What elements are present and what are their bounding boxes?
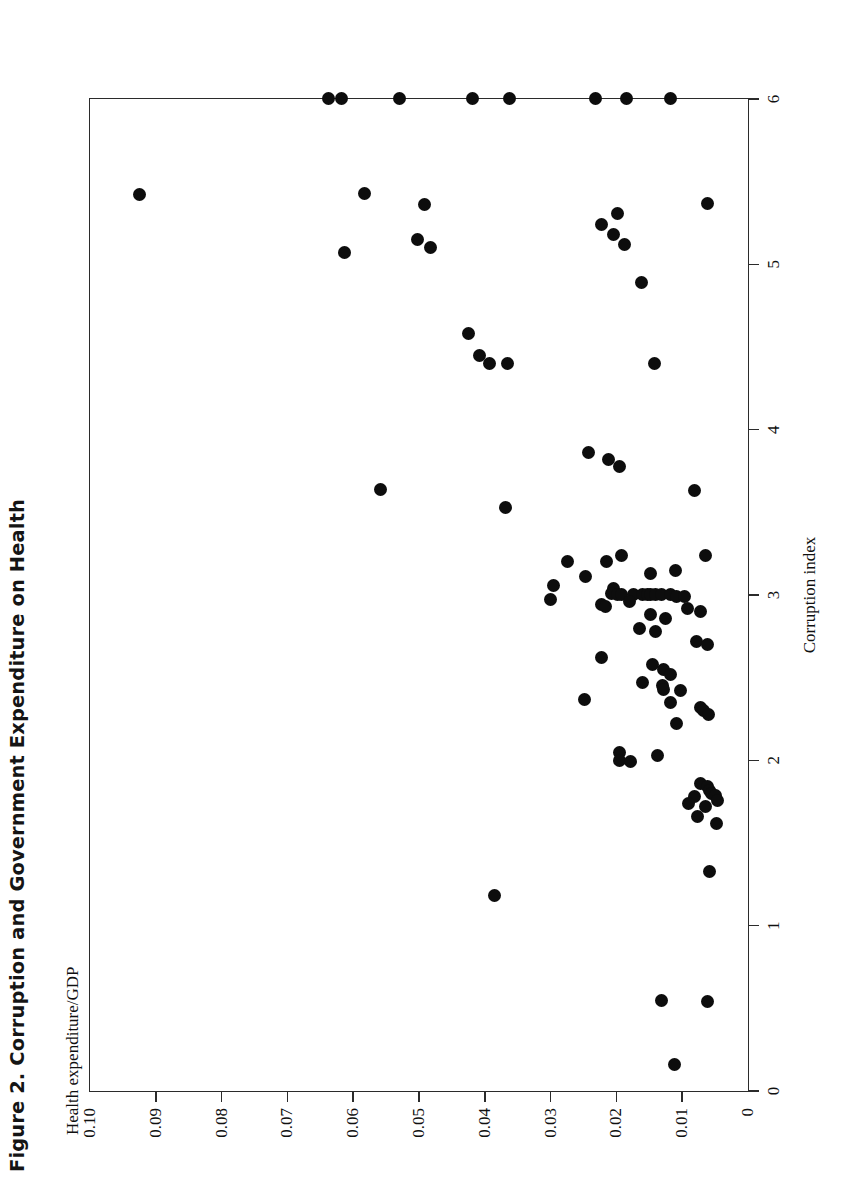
scatter-point (595, 218, 608, 231)
scatter-point (611, 207, 624, 220)
scatter-point (664, 93, 677, 106)
scatter-point (644, 567, 657, 580)
y-axis-tick (616, 1091, 618, 1102)
y-axis-tick-label: 0 (738, 1108, 758, 1117)
x-axis-tick (748, 264, 759, 266)
y-axis-tick (221, 1091, 223, 1102)
scatter-point (701, 995, 714, 1008)
scatter-point (710, 817, 723, 830)
scatter-point (636, 676, 649, 689)
scatter-point (374, 483, 387, 496)
y-axis-tick-label: 0.09 (146, 1108, 166, 1138)
scatter-point (674, 684, 687, 697)
y-axis-tick (352, 1091, 354, 1102)
scatter-point (644, 608, 657, 621)
y-axis-tick (484, 1091, 486, 1102)
scatter-point (501, 357, 514, 370)
scatter-point (599, 600, 612, 613)
scatter-point (670, 717, 683, 730)
y-axis-tick (681, 1091, 683, 1102)
scatter-point (651, 749, 664, 762)
scatter-point (701, 197, 714, 210)
scatter-point (682, 797, 695, 810)
x-axis-tick-label: 0 (764, 1087, 784, 1096)
x-axis-tick (748, 429, 759, 431)
scatter-point (648, 357, 661, 370)
scatter-point (483, 357, 496, 370)
y-axis-tick-label: 0.10 (80, 1108, 100, 1138)
scatter-point (582, 446, 595, 459)
scatter-point (335, 93, 348, 106)
x-axis-tick (748, 1090, 759, 1092)
y-axis-tick-label: 0.02 (606, 1108, 626, 1138)
scatter-point (613, 460, 626, 473)
y-axis-tick-label: 0.07 (277, 1108, 297, 1138)
scatter-point (618, 238, 631, 251)
y-axis-tick-label: 0.01 (672, 1108, 692, 1138)
x-axis-tick (748, 594, 759, 596)
x-axis-tick (748, 925, 759, 927)
scatter-point (462, 327, 475, 340)
scatter-point (688, 484, 701, 497)
x-axis-tick-label: 5 (764, 260, 784, 269)
y-axis-tick-label: 0.06 (343, 1108, 363, 1138)
scatter-point (322, 93, 335, 106)
scatter-point (678, 590, 691, 603)
scatter-point (578, 693, 591, 706)
scatter-point (669, 564, 682, 577)
scatter-point (579, 570, 592, 583)
scatter-point (694, 605, 707, 618)
scatter-point (681, 602, 694, 615)
y-axis-tick (550, 1091, 552, 1102)
scatter-point (133, 188, 146, 201)
x-axis-tick-label: 4 (764, 425, 784, 434)
y-axis-tick (418, 1091, 420, 1102)
scatter-point (418, 198, 431, 211)
y-axis-tick (155, 1091, 157, 1102)
scatter-point (649, 625, 662, 638)
scatter-point (589, 93, 602, 106)
scatter-point (668, 1058, 681, 1071)
x-axis-tick-label: 6 (764, 95, 784, 104)
rotated-figure-wrapper: Figure 2. Corruption and Government Expe… (0, 0, 844, 1180)
scatter-point (503, 93, 516, 106)
figure-page: Figure 2. Corruption and Government Expe… (0, 0, 844, 1180)
scatter-point (657, 683, 670, 696)
scatter-point (600, 555, 613, 568)
scatter-point (607, 228, 620, 241)
x-axis-tick-label: 3 (764, 591, 784, 600)
scatter-point (623, 595, 636, 608)
scatter-point (615, 549, 628, 562)
scatter-point (338, 246, 351, 259)
y-axis-tick-label: 0.08 (212, 1108, 232, 1138)
scatter-point (691, 810, 704, 823)
scatter-point (561, 555, 574, 568)
scatter-point (635, 276, 648, 289)
scatter-point (499, 501, 512, 514)
scatter-point (702, 708, 715, 721)
scatter-point (620, 93, 633, 106)
scatter-point (393, 93, 406, 106)
scatter-point (358, 187, 371, 200)
scatter-plot-area: 012345600.010.020.030.040.050.060.070.08… (89, 98, 749, 1092)
figure-title: Figure 2. Corruption and Government Expe… (6, 499, 29, 1172)
scatter-point (701, 638, 714, 651)
y-axis-tick (287, 1091, 289, 1102)
scatter-point (633, 622, 646, 635)
x-axis-tick-label: 2 (764, 756, 784, 765)
x-axis-tick (748, 760, 759, 762)
scatter-point (466, 93, 479, 106)
scatter-point (411, 233, 424, 246)
x-axis-tick (748, 98, 759, 100)
scatter-point (711, 794, 724, 807)
scatter-point (595, 651, 608, 664)
scatter-point (424, 241, 437, 254)
y-axis-tick-label: 0.05 (409, 1108, 429, 1138)
scatter-point (544, 593, 557, 606)
scatter-point (624, 756, 637, 769)
scatter-point (659, 612, 672, 625)
scatter-point (699, 549, 712, 562)
scatter-point (488, 889, 501, 902)
scatter-point (655, 994, 668, 1007)
scatter-point (703, 865, 716, 878)
